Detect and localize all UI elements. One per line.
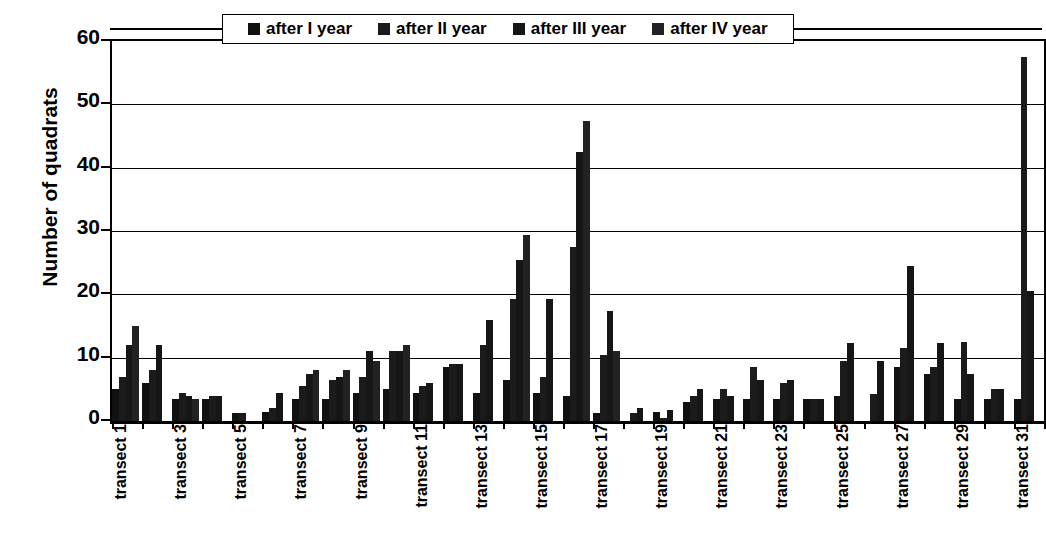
bar-groups bbox=[112, 41, 1044, 421]
bar bbox=[396, 351, 403, 421]
legend-label: after III year bbox=[531, 19, 626, 39]
bar bbox=[1014, 399, 1021, 421]
bar bbox=[503, 380, 510, 421]
x-label-cell: transect 17 bbox=[591, 424, 621, 548]
bar bbox=[202, 399, 209, 421]
x-tick-label-transect-27: transect 27 bbox=[894, 424, 912, 534]
bar bbox=[930, 367, 937, 421]
x-label-cell: transect 7 bbox=[290, 424, 320, 548]
bar bbox=[967, 374, 974, 422]
x-tick-label-transect-19: transect 19 bbox=[653, 424, 671, 534]
x-tick-label-transect-3: transect 3 bbox=[172, 424, 190, 534]
legend-connector-right bbox=[794, 28, 1042, 30]
bar bbox=[523, 235, 530, 421]
bar bbox=[954, 399, 961, 421]
x-tick-label-transect-21: transect 21 bbox=[713, 424, 731, 534]
x-label-cell bbox=[862, 424, 892, 548]
bar bbox=[900, 348, 907, 421]
bar bbox=[773, 399, 780, 421]
bar bbox=[727, 396, 734, 421]
plot-area bbox=[110, 39, 1046, 424]
bar bbox=[991, 389, 998, 421]
bar-group bbox=[894, 41, 924, 421]
x-tick-label-transect-15: transect 15 bbox=[533, 424, 551, 534]
bar-group bbox=[954, 41, 984, 421]
bar-group bbox=[383, 41, 413, 421]
bar bbox=[653, 412, 660, 422]
bar-group bbox=[473, 41, 503, 421]
legend-label: after I year bbox=[266, 19, 352, 39]
bar bbox=[449, 364, 456, 421]
bar bbox=[126, 345, 133, 421]
y-tick-label-20: 20 bbox=[56, 279, 100, 300]
x-tick-label-transect-29: transect 29 bbox=[954, 424, 972, 534]
bar bbox=[630, 413, 637, 421]
bar bbox=[660, 418, 667, 421]
legend-label: after II year bbox=[396, 19, 487, 39]
y-tick-label-10: 10 bbox=[56, 343, 100, 364]
y-tick-mark bbox=[101, 102, 111, 104]
bar bbox=[383, 389, 390, 421]
x-label-cell: transect 11 bbox=[411, 424, 441, 548]
x-label-cell: transect 15 bbox=[531, 424, 561, 548]
bar bbox=[510, 299, 517, 421]
bar bbox=[142, 383, 149, 421]
bar bbox=[997, 389, 1004, 421]
x-label-cell: transect 5 bbox=[230, 424, 260, 548]
x-tick-label-transect-11: transect 11 bbox=[413, 424, 431, 534]
bar bbox=[984, 399, 991, 421]
x-label-cell bbox=[741, 424, 771, 548]
x-label-cell bbox=[200, 424, 230, 548]
x-tick-label-transect-1: transect 1 bbox=[112, 424, 130, 534]
bar bbox=[480, 345, 487, 421]
legend-swatch-icon bbox=[513, 23, 525, 35]
bar bbox=[112, 389, 119, 421]
bar-group bbox=[322, 41, 352, 421]
bar bbox=[803, 399, 810, 421]
y-tick-label-50: 50 bbox=[56, 89, 100, 110]
x-axis-labels: transect 1transect 3transect 5transect 7… bbox=[110, 424, 1042, 548]
x-label-cell bbox=[922, 424, 952, 548]
bar-group bbox=[112, 41, 142, 421]
bar bbox=[306, 374, 313, 422]
bar bbox=[419, 386, 426, 421]
x-tick-label-transect-5: transect 5 bbox=[232, 424, 250, 534]
bar bbox=[269, 408, 276, 421]
bar-group bbox=[1014, 41, 1044, 421]
bar bbox=[690, 396, 697, 421]
bar bbox=[743, 399, 750, 421]
bar bbox=[757, 380, 764, 421]
bar-group bbox=[262, 41, 292, 421]
bar bbox=[720, 389, 727, 421]
chart-legend: after I yearafter II yearafter III yeara… bbox=[222, 14, 794, 44]
bar bbox=[840, 361, 847, 421]
bar bbox=[156, 345, 163, 421]
x-label-cell bbox=[621, 424, 651, 548]
bar-group bbox=[142, 41, 172, 421]
legend-item-4: after IV year bbox=[652, 19, 767, 39]
bar-group bbox=[292, 41, 322, 421]
bar-group bbox=[803, 41, 833, 421]
bar bbox=[353, 393, 360, 422]
x-label-cell: transect 29 bbox=[952, 424, 982, 548]
y-tick-label-60: 60 bbox=[56, 26, 100, 47]
x-tick-label-transect-23: transect 23 bbox=[773, 424, 791, 534]
bar bbox=[403, 345, 410, 421]
bar bbox=[216, 396, 223, 421]
x-label-cell: transect 19 bbox=[651, 424, 681, 548]
bar bbox=[847, 343, 854, 421]
legend-item-2: after II year bbox=[378, 19, 487, 39]
bar bbox=[750, 367, 757, 421]
bar bbox=[787, 380, 794, 421]
bar bbox=[456, 364, 463, 421]
bar-group bbox=[353, 41, 383, 421]
x-label-cell: transect 23 bbox=[771, 424, 801, 548]
x-label-cell: transect 13 bbox=[471, 424, 501, 548]
bar bbox=[583, 121, 590, 421]
legend-swatch-icon bbox=[652, 23, 664, 35]
bar bbox=[119, 377, 126, 421]
bar bbox=[426, 383, 433, 421]
x-label-cell: transect 25 bbox=[832, 424, 862, 548]
bar-group bbox=[443, 41, 473, 421]
bar-group bbox=[713, 41, 743, 421]
